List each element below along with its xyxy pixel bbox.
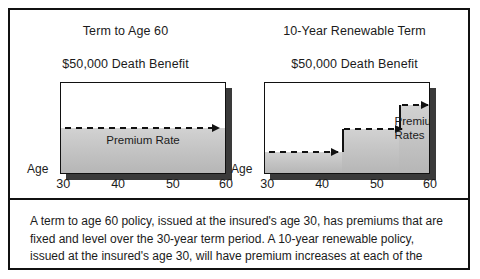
panel-title-right: 10-Year Renewable Term — [241, 24, 468, 38]
figure-container: Term to Age 60 $50,000 Death Benefit Age… — [8, 8, 470, 270]
premium-step-2 — [342, 129, 399, 173]
panel-title-left: Term to Age 60 — [10, 24, 241, 38]
tick-label: 60 — [423, 177, 437, 191]
premium-arrow-step-2 — [344, 128, 402, 130]
premium-arrow-step-1 — [269, 151, 338, 153]
panel-subtitle-left: $50,000 Death Benefit — [10, 57, 241, 71]
premium-rates-label-line2: Rates — [395, 129, 430, 143]
panel-term-to-age-60: Term to Age 60 $50,000 Death Benefit Age… — [10, 10, 241, 194]
axis-label-age-left: Age — [27, 162, 48, 176]
tick-label: 50 — [166, 177, 180, 191]
plot-frame-left: Premium Rate — [60, 82, 226, 174]
x-axis-ticks-right: 30 40 50 60 — [264, 177, 430, 193]
plot-area-right: Premium Rates — [264, 82, 430, 174]
plot-frame-right: Premium Rates — [264, 82, 430, 174]
tick-label: 40 — [111, 177, 125, 191]
premium-arrow-step-3 — [402, 104, 428, 106]
panel-subtitle-right: $50,000 Death Benefit — [241, 57, 468, 71]
tick-label: 50 — [370, 177, 384, 191]
tick-label: 30 — [56, 177, 70, 191]
premium-rates-label: Premium Rates — [395, 115, 430, 142]
horizontal-divider — [10, 198, 468, 200]
charts-area: Term to Age 60 $50,000 Death Benefit Age… — [10, 10, 468, 194]
step-riser-age-40 — [342, 129, 344, 152]
tick-label: 40 — [315, 177, 329, 191]
tick-label: 30 — [260, 177, 274, 191]
premium-rates-label-line1: Premium — [395, 115, 430, 129]
figure-caption: A term to age 60 policy, issued at the i… — [30, 213, 450, 270]
x-axis-ticks-left: 30 40 50 60 — [60, 177, 226, 193]
tick-label: 60 — [219, 177, 233, 191]
premium-rate-arrow — [65, 127, 219, 129]
panel-10-year-renewable-term: 10-Year Renewable Term $50,000 Death Ben… — [241, 10, 468, 194]
axis-label-age-right: Age — [231, 162, 252, 176]
premium-rate-label: Premium Rate — [61, 134, 225, 148]
plot-area-left: Premium Rate — [60, 82, 226, 174]
